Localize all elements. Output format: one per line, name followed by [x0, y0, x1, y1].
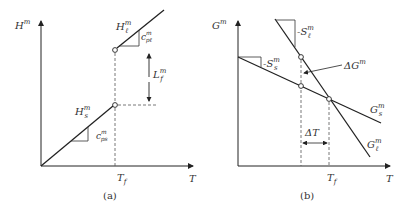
x-axis-label: T	[189, 173, 197, 184]
liquid-gibbs-line	[275, 19, 370, 157]
solid-gibbs-label: Gms	[370, 102, 385, 118]
latent-heat-label: Lmf	[152, 67, 167, 83]
melting-point-solid-marker	[113, 103, 118, 108]
liquid-entropy-slope-label: -Smℓ	[297, 24, 314, 40]
diagram-canvas: Hm T Tf Hms Hmℓ cmps cmpℓ Lmf (a)	[0, 0, 409, 211]
tick-tf-label: Tf	[327, 172, 338, 186]
liquid-heat-capacity-label: cmpℓ	[141, 29, 153, 44]
solid-enthalpy-label: Hms	[74, 104, 91, 120]
intersection-marker	[327, 97, 332, 102]
solid-heat-capacity-label: cmps	[96, 128, 108, 143]
y-axis-label: Hm	[14, 18, 31, 31]
panel-a-caption: (a)	[103, 190, 117, 201]
liquid-gibbs-marker	[299, 55, 304, 60]
liquid-gibbs-label: Gmℓ	[367, 137, 382, 153]
delta-t-label: ΔT	[304, 127, 320, 138]
solid-gibbs-marker	[299, 84, 304, 89]
melting-point-liquid-marker	[113, 48, 118, 53]
panel-b-caption: (b)	[300, 190, 314, 201]
panel-a: Hm T Tf Hms Hmℓ cmps cmpℓ Lmf (a)	[14, 10, 197, 201]
delta-g-label: ΔGm	[343, 58, 366, 71]
x-axis-label: T	[386, 173, 394, 184]
y-axis-label: Gm	[212, 18, 227, 31]
liquid-enthalpy-label: Hmℓ	[115, 19, 132, 35]
tick-tf-label: Tf	[117, 172, 128, 186]
panel-b: Gm T Tf -Sms -Smℓ ΔGm ΔT Gms Gmℓ (b)	[212, 18, 394, 201]
solid-gibbs-line	[238, 57, 381, 123]
